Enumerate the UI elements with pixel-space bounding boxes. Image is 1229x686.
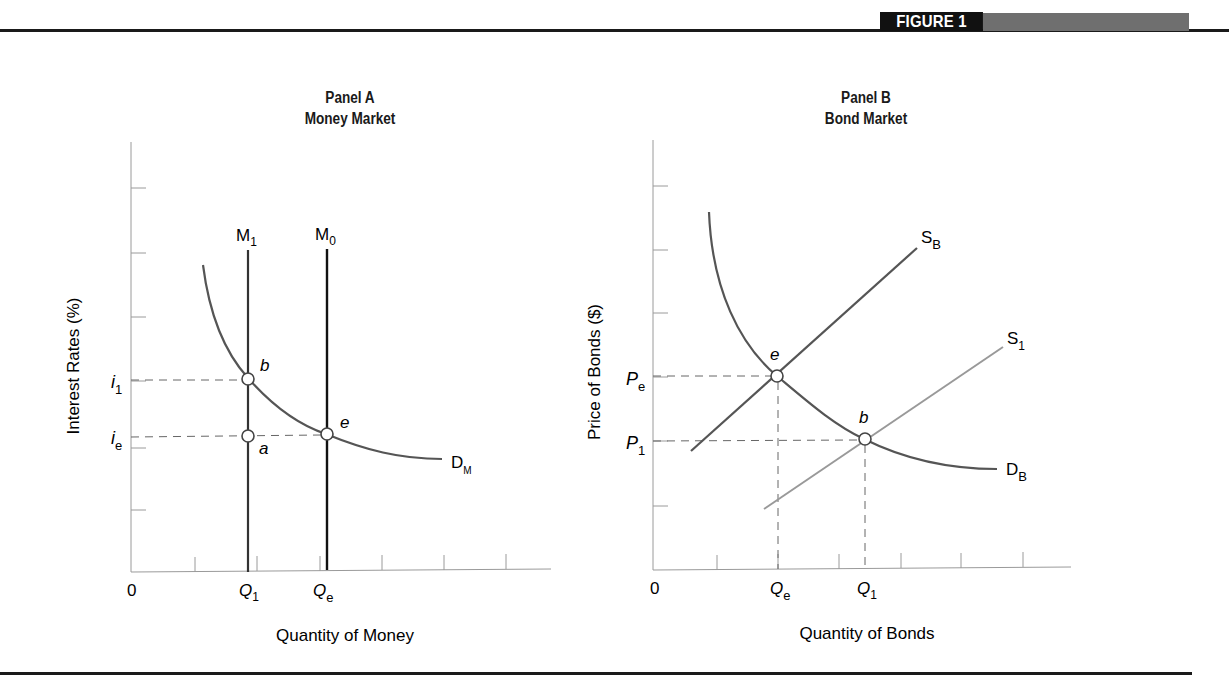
- panel-b-x-axis-title: Quantity of Bonds: [799, 624, 934, 643]
- panel-b-y-ticks: [653, 186, 668, 506]
- panel-a-m1-label: M1: [236, 226, 257, 249]
- figure-canvas: M1 M0 DM b a e i1 ie 0 Q1 Qe Quantity of…: [0, 0, 1229, 686]
- panel-a-y-ticks: [131, 188, 146, 510]
- panel-b-demand-curve: [709, 212, 997, 469]
- panel-a-ie-guide: [131, 435, 321, 437]
- panel-b-chart: SB S1 DB e b Pe P1 0 Qe Q1 Quantity of B…: [585, 140, 1071, 643]
- panel-a-point-b: [242, 373, 254, 385]
- panel-a-dm-label: DM: [451, 453, 472, 476]
- panel-a-x-axis: [131, 569, 551, 572]
- panel-b-q1-label: Q1: [857, 579, 877, 602]
- panel-b-point-e: [771, 370, 783, 382]
- panel-a-a-label: a: [259, 439, 268, 458]
- panel-b-b-label: b: [859, 408, 868, 427]
- panel-b-y-axis-title: Price of Bonds ($): [585, 304, 604, 440]
- panel-a-x-axis-title: Quantity of Money: [276, 626, 414, 645]
- panel-b-s1-label: S1: [1007, 329, 1025, 353]
- panel-a-point-a: [242, 430, 254, 442]
- panel-a-m0-label: M0: [315, 225, 336, 248]
- panel-a-i1-label: i1: [111, 372, 122, 397]
- panel-b-sb-line: [691, 248, 917, 451]
- panel-a-origin-label: 0: [127, 581, 136, 600]
- panel-b-pe-label: Pe: [626, 369, 645, 394]
- panel-a-q1-label: Q1: [239, 581, 259, 604]
- panel-b-p1-label: P1: [626, 433, 645, 458]
- panel-a-e-label: e: [340, 413, 349, 432]
- panel-b-qe-label: Qe: [770, 579, 790, 603]
- panel-a-y-axis-title: Interest Rates (%): [64, 298, 83, 435]
- panel-b-x-axis: [653, 567, 1071, 570]
- panel-b-s1-line: [764, 347, 1003, 509]
- panel-b-e-label: e: [770, 345, 779, 364]
- panel-a-qe-label: Qe: [313, 581, 333, 605]
- panel-b-point-b: [859, 433, 871, 445]
- panel-a-chart: M1 M0 DM b a e i1 ie 0 Q1 Qe Quantity of…: [64, 142, 551, 645]
- bottom-rule: [0, 672, 1192, 675]
- panel-b-origin-label: 0: [650, 579, 659, 598]
- panel-a-b-label: b: [260, 356, 269, 375]
- panel-a-ie-label: ie: [111, 428, 122, 453]
- panel-a-point-e: [321, 428, 333, 440]
- panel-b-p1-guide: [653, 440, 858, 441]
- panel-b-db-label: DB: [1006, 460, 1027, 484]
- panel-b-sb-label: SB: [921, 228, 941, 252]
